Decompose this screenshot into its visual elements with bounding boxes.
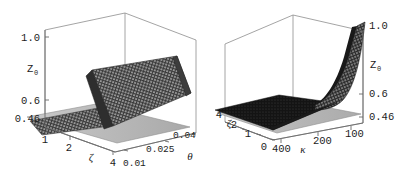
theta-tick-label-1: 0.04	[173, 130, 196, 141]
theta-tick-label-3: 0.01	[123, 158, 146, 169]
z-tick-label-3: 0.46	[369, 111, 394, 123]
z-axis-name-sub: 0	[377, 65, 381, 73]
z-axis-name: Z 0	[27, 63, 38, 77]
kappa-tick-label-1: 400	[272, 143, 291, 155]
z-axis-name-main: Z	[370, 59, 376, 71]
z-axis-name-main: Z	[27, 63, 33, 75]
zeta-tick-label-2: 2	[66, 142, 72, 154]
zeta-tick-label-1: 4	[216, 109, 222, 121]
zeta-tick-label-2: 2	[231, 119, 237, 131]
z-tick-label-3: 0.46	[15, 113, 40, 125]
figure-root: 1.0 0.6 0.46 Z 0 1 2 4 ζ 0.04 0.025 0.01…	[0, 0, 411, 174]
z-tick-marks	[45, 37, 49, 118]
theta-axis-name: θ	[187, 150, 193, 162]
z-tick-label-2: 0.6	[21, 95, 40, 107]
kappa-axis-name: κ	[300, 143, 306, 155]
z-tick-label-1: 1.0	[21, 32, 40, 44]
surface-mesh-riser	[315, 22, 365, 110]
z-tick-label-2: 0.6	[369, 88, 388, 100]
right-plot-canvas: 1.0 0.6 0.46 Z 0 4 2 1 0 ζ 400 200 100 κ	[205, 0, 411, 174]
kappa-tick-label-2: 200	[313, 135, 332, 147]
z-axis-name: Z 0	[370, 59, 381, 73]
z-axis-name-sub: 0	[34, 69, 38, 77]
zeta-tick-label-4: 0	[261, 141, 267, 153]
zeta-axis-name: ζ	[89, 151, 95, 164]
surface-plot-right: 1.0 0.6 0.46 Z 0 4 2 1 0 ζ 400 200 100 κ	[205, 0, 411, 174]
zeta-tick-label-3: 4	[110, 157, 116, 169]
z-tick-label-1: 1.0	[369, 20, 388, 32]
surface-plot-left: 1.0 0.6 0.46 Z 0 1 2 4 ζ 0.04 0.025 0.01…	[0, 0, 206, 174]
theta-tick-label-2: 0.025	[146, 144, 175, 155]
zeta-tick-label-1: 1	[42, 134, 48, 146]
zeta-tick-label-3: 1	[245, 128, 251, 140]
kappa-tick-label-3: 100	[345, 128, 364, 140]
left-plot-canvas: 1.0 0.6 0.46 Z 0 1 2 4 ζ 0.04 0.025 0.01…	[0, 0, 206, 174]
